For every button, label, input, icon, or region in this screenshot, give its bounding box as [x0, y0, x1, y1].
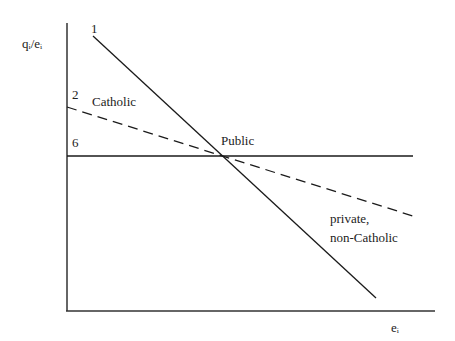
private-label: private, non-Catholic [330, 209, 398, 247]
catholic-dashed-line [67, 107, 413, 216]
line-label-6: 6 [72, 136, 79, 149]
diagram-canvas [0, 0, 455, 341]
line-label-1: 1 [91, 22, 98, 35]
catholic-label: Catholic [92, 95, 136, 108]
y-axis-label: qᵢ/eᵢ [22, 37, 42, 50]
x-axis-label: eᵢ [391, 321, 399, 334]
private-label-line1: private, [330, 209, 398, 228]
steep-solid-line [93, 36, 376, 298]
line-label-2: 2 [72, 88, 79, 101]
private-label-line2: non-Catholic [330, 228, 398, 247]
public-label: Public [221, 134, 254, 147]
